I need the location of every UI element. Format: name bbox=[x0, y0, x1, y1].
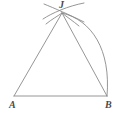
segment-JB bbox=[62, 13, 107, 96]
triangle-sides bbox=[14, 13, 107, 96]
vertex-label-A: A bbox=[9, 100, 16, 110]
vertex-label-B: B bbox=[105, 100, 112, 110]
geometry-canvas bbox=[0, 0, 118, 117]
construction-arc-lower-left-icon bbox=[46, 13, 62, 24]
segment-AJ bbox=[14, 13, 62, 96]
construction-arc-lower-right-icon bbox=[62, 13, 79, 26]
geometry-figure: J A B bbox=[0, 0, 118, 117]
vertex-label-J: J bbox=[59, 0, 64, 10]
